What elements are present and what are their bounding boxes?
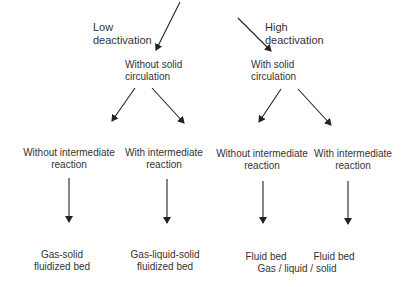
- with-solid-circulation-line1: With solid: [251, 59, 296, 71]
- level3-node-2-line2: reaction: [125, 159, 203, 171]
- with-solid-circulation-node: With solid circulation: [251, 59, 296, 83]
- gas-solid-fluidized-bed: Gas-solid fluidized bed: [34, 249, 90, 273]
- level4-node-1-line2: fluidized bed: [34, 261, 90, 273]
- low-deactivation-line1: Low: [93, 21, 152, 34]
- fluid-bed-2: Fluid bed: [313, 251, 354, 263]
- with-solid-circulation-line2: circulation: [251, 71, 296, 83]
- level4-node-2-line1: Gas-liquid-solid: [131, 249, 200, 261]
- arrow-left-branch-2: [152, 88, 184, 123]
- without-solid-circulation-node: Without solid circulation: [125, 59, 182, 83]
- level3-node-3-line1: Without intermediate: [216, 148, 308, 160]
- arrow-low-deactivation: [156, 2, 180, 50]
- level3-node-4-line1: With intermediate: [314, 148, 392, 160]
- low-deactivation-label: Low deactivation: [93, 21, 152, 47]
- gas-liquid-solid-fluidized-bed: Gas-liquid-solid fluidized bed: [131, 249, 200, 273]
- without-solid-circulation-line2: circulation: [125, 71, 182, 83]
- level3-node-4-line2: reaction: [314, 160, 392, 172]
- level3-node-2: With intermediate reaction: [125, 147, 203, 171]
- level4-node-1-line1: Gas-solid: [34, 249, 90, 261]
- gas-liquid-solid-note: Gas / liquid / solid: [258, 263, 337, 275]
- low-deactivation-line2: deactivation: [93, 34, 152, 47]
- high-deactivation-label: High deactivation: [265, 21, 324, 47]
- arrow-right-branch-1: [259, 89, 281, 122]
- level3-node-3: Without intermediate reaction: [216, 148, 308, 172]
- arrow-layer: [0, 0, 408, 287]
- level4-node-2-line2: fluidized bed: [131, 261, 200, 273]
- high-deactivation-line2: deactivation: [265, 34, 324, 47]
- high-deactivation-line1: High: [265, 21, 324, 34]
- level3-node-1-line2: reaction: [23, 159, 115, 171]
- level3-node-3-line2: reaction: [216, 160, 308, 172]
- level4-node-4-line1: Fluid bed: [313, 251, 354, 263]
- arrow-right-branch-2: [298, 89, 331, 125]
- fluid-bed-1: Fluid bed: [245, 251, 286, 263]
- level4-node-3-line1: Fluid bed: [245, 251, 286, 263]
- level3-node-2-line1: With intermediate: [125, 147, 203, 159]
- level3-node-1: Without intermediate reaction: [23, 147, 115, 171]
- level3-node-4: With intermediate reaction: [314, 148, 392, 172]
- arrow-left-branch-1: [112, 88, 135, 121]
- level3-node-1-line1: Without intermediate: [23, 147, 115, 159]
- without-solid-circulation-line1: Without solid: [125, 59, 182, 71]
